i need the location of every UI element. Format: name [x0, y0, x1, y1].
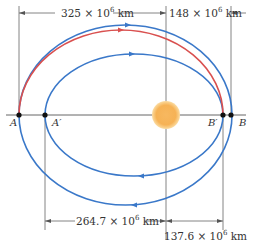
- point-a-label: A: [10, 117, 17, 128]
- transfer-orbit: [19, 30, 223, 115]
- label-137-6: 137.6 × 106 km: [164, 229, 247, 242]
- point-b-label: B: [239, 117, 246, 128]
- label-264-7: 264.7 × 106 km: [76, 214, 159, 227]
- sun-icon: [152, 101, 180, 129]
- point-a-prime-label: A′: [52, 117, 62, 128]
- label-325: 325 × 106 km: [61, 6, 134, 19]
- label-148: 148 × 106 km: [169, 6, 242, 19]
- point-b-prime-label: B′: [208, 117, 218, 128]
